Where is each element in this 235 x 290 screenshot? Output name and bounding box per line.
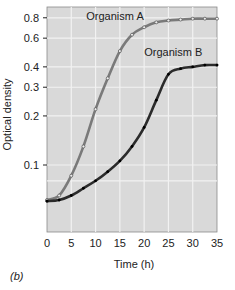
data-point (203, 17, 206, 20)
data-point (106, 77, 109, 80)
plot-area (47, 7, 217, 232)
series-label: Organism B (144, 46, 202, 58)
data-point (216, 64, 219, 67)
series-label: Organism A (86, 10, 144, 22)
data-point (155, 99, 158, 102)
x-tick-label: 30 (187, 237, 199, 249)
data-point (70, 194, 73, 197)
growth-curve-chart: 0.10.20.30.40.60.8 05101520253035 Organi… (0, 0, 235, 290)
data-point (216, 17, 219, 20)
y-tick-label: 0.6 (24, 32, 39, 44)
y-axis-title: Optical density (1, 78, 13, 151)
y-tick-label: 0.4 (24, 61, 39, 73)
x-tick-label: 35 (211, 237, 223, 249)
x-tick-label: 15 (114, 237, 126, 249)
data-point (167, 19, 170, 22)
data-point (179, 67, 182, 70)
data-point (94, 108, 97, 111)
y-tick-label: 0.8 (24, 12, 39, 24)
x-tick-label: 0 (44, 237, 50, 249)
x-tick-label: 5 (68, 237, 74, 249)
data-point (143, 126, 146, 129)
y-tick-label: 0.1 (24, 159, 39, 171)
data-point (70, 174, 73, 177)
data-point (155, 21, 158, 24)
data-point (82, 145, 85, 148)
data-point (167, 73, 170, 76)
data-point (58, 194, 61, 197)
y-tick-label: 0.2 (24, 110, 39, 122)
data-point (106, 170, 109, 173)
data-point (131, 33, 134, 36)
data-point (118, 50, 121, 53)
x-axis: 05101520253035 (44, 237, 223, 249)
data-point (191, 17, 194, 20)
data-point (46, 200, 49, 203)
x-axis-title: Time (h) (114, 258, 155, 270)
data-point (191, 65, 194, 68)
data-point (82, 187, 85, 190)
y-axis: 0.10.20.30.40.60.8 (24, 12, 47, 171)
x-tick-label: 10 (89, 237, 101, 249)
x-tick-label: 25 (162, 237, 174, 249)
data-point (143, 26, 146, 29)
data-point (58, 199, 61, 202)
data-point (118, 159, 121, 162)
panel-label: (b) (10, 270, 23, 282)
x-tick-label: 20 (138, 237, 150, 249)
data-point (94, 179, 97, 182)
data-point (203, 64, 206, 67)
y-tick-label: 0.3 (24, 81, 39, 93)
data-point (179, 18, 182, 21)
data-point (131, 145, 134, 148)
